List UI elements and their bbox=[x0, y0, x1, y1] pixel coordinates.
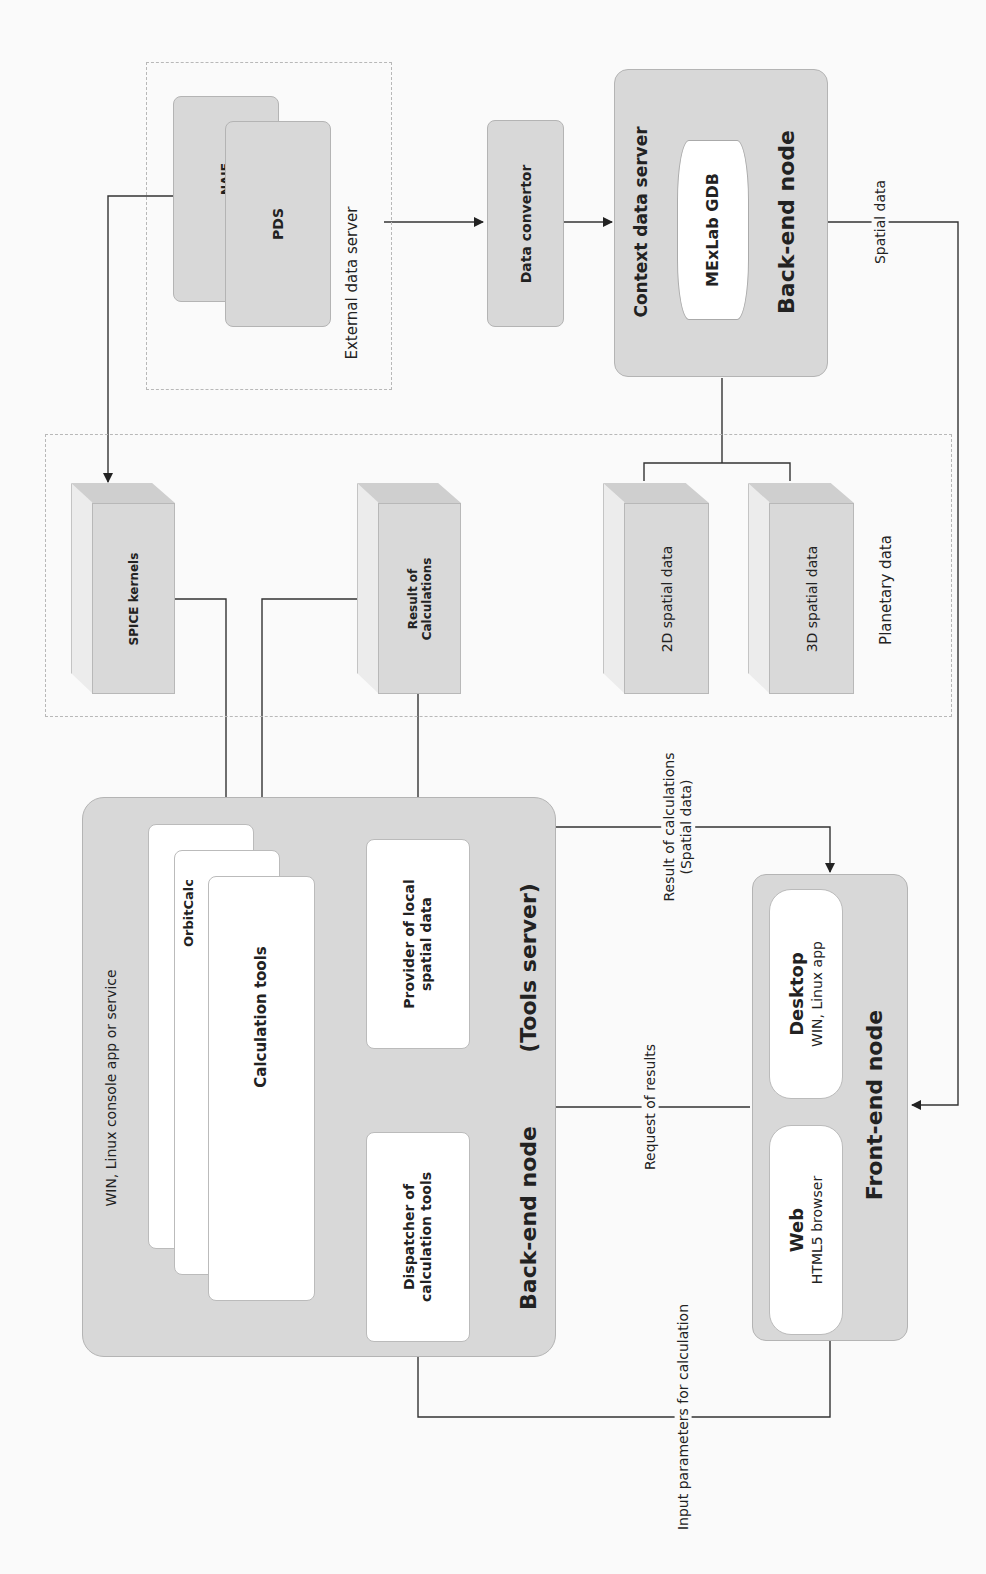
result-of-calculations-box[interactable]: Result of Calculations bbox=[357, 483, 461, 694]
result-edge-label: Result of calculations (Spatial data) bbox=[661, 749, 695, 906]
result-of-calculations-label: Result of Calculations bbox=[405, 544, 434, 654]
external-data-server-label: External data server bbox=[343, 202, 361, 363]
desktop-title: Desktop bbox=[785, 941, 808, 1047]
tools-node-sublabel: (Tools server) bbox=[516, 879, 542, 1057]
calculation-tools-card[interactable]: Calculation tools bbox=[208, 876, 315, 1301]
context-data-server-title: Context data server bbox=[631, 122, 651, 321]
data-convertor-label: Data convertor bbox=[517, 164, 534, 283]
platform-label: WIN, Linux console app or service bbox=[103, 965, 120, 1210]
front-end-node-box[interactable]: Desktop WIN, Linux app Web HTML5 browser… bbox=[752, 874, 908, 1341]
input-parameters-label: Input parameters for calculation bbox=[675, 1300, 692, 1534]
data-convertor-box[interactable]: Data convertor bbox=[487, 120, 564, 327]
spice-kernels-label: SPICE kernels bbox=[126, 552, 140, 645]
result-edge-line1: Result of calculations bbox=[661, 753, 678, 902]
provider-box[interactable]: Provider of local spatial data bbox=[366, 839, 470, 1049]
pds-label: PDS bbox=[270, 208, 287, 240]
dispatcher-box[interactable]: Dispatcher of calculation tools bbox=[366, 1132, 470, 1342]
orbitcalc-label: OrbitCalc bbox=[181, 875, 197, 951]
dispatcher-label: Dispatcher of calculation tools bbox=[401, 1162, 435, 1312]
web-client-text: Web HTML5 browser bbox=[785, 1176, 827, 1284]
front-end-node-label: Front-end node bbox=[862, 1006, 888, 1204]
calculation-tools-label: Calculation tools bbox=[252, 942, 270, 1091]
spatial-data-edge-label: Spatial data bbox=[872, 176, 889, 268]
desktop-client-box[interactable]: Desktop WIN, Linux app bbox=[769, 889, 843, 1099]
database-cylinder-icon: MExLab GDB bbox=[677, 140, 749, 320]
tools-node-label: Back-end node bbox=[516, 1122, 542, 1314]
spice-kernels-box[interactable]: SPICE kernels bbox=[71, 483, 175, 694]
database-label: MExLab GDB bbox=[703, 173, 722, 287]
request-results-label: Request of results bbox=[642, 1040, 659, 1174]
web-subtitle: HTML5 browser bbox=[809, 1176, 827, 1284]
desktop-subtitle: WIN, Linux app bbox=[809, 941, 827, 1047]
pds-box[interactable]: PDS bbox=[225, 121, 331, 327]
web-title: Web bbox=[785, 1176, 808, 1284]
result-edge-line2: (Spatial data) bbox=[678, 753, 695, 902]
planetary-data-label: Planetary data bbox=[877, 531, 895, 649]
desktop-client-text: Desktop WIN, Linux app bbox=[785, 941, 827, 1047]
context-node-label: Back-end node bbox=[774, 126, 800, 318]
spatial-3d-label: 3D spatial data bbox=[803, 545, 820, 652]
web-client-box[interactable]: Web HTML5 browser bbox=[769, 1125, 843, 1335]
spatial-3d-box[interactable]: 3D spatial data bbox=[748, 483, 854, 694]
spatial-2d-box[interactable]: 2D spatial data bbox=[603, 483, 709, 694]
provider-label: Provider of local spatial data bbox=[401, 869, 435, 1019]
context-data-server-box[interactable]: Context data server MExLab GDB Back-end … bbox=[614, 69, 828, 377]
spatial-2d-label: 2D spatial data bbox=[658, 545, 675, 652]
